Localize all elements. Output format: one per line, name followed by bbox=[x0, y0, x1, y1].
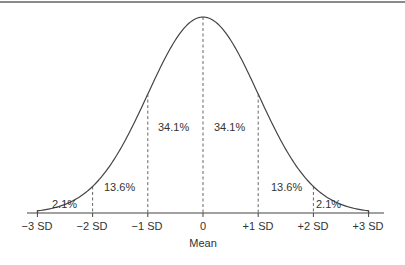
tick-label-plus3sd: +3 SD bbox=[353, 220, 384, 232]
tick-label-mean: 0 bbox=[200, 220, 206, 232]
tick-label-minus3sd: −3 SD bbox=[22, 220, 53, 232]
region-label-minus3-minus2: 2.1% bbox=[52, 198, 77, 210]
tick-label-plus1sd: +1 SD bbox=[243, 220, 274, 232]
tick-label-minus2sd: −2 SD bbox=[77, 220, 108, 232]
region-label-mean-plus1: 34.1% bbox=[214, 121, 245, 133]
tick-label-plus2sd: +2 SD bbox=[298, 220, 329, 232]
x-axis-label: Mean bbox=[189, 237, 217, 249]
region-label-plus2-plus3: 2.1% bbox=[316, 198, 341, 210]
region-label-plus1-plus2: 13.6% bbox=[271, 181, 302, 193]
bell-curve-chart: 2.1% 13.6% 34.1% 34.1% 13.6% 2.1% −3 SD … bbox=[0, 0, 405, 265]
region-label-minus1-mean: 34.1% bbox=[158, 121, 189, 133]
sd-lines bbox=[37, 17, 368, 217]
region-label-minus2-minus1: 13.6% bbox=[104, 181, 135, 193]
tick-label-minus1sd: −1 SD bbox=[132, 220, 163, 232]
